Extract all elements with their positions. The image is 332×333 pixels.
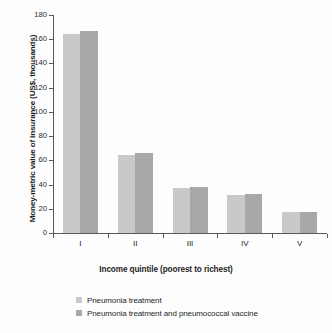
y-axis-tick: 40 xyxy=(49,185,53,186)
y-axis-tick-label: 80 xyxy=(25,131,47,140)
y-axis-tick: 60 xyxy=(49,160,53,161)
plot-area: 020406080100120140160180IIIIIIIVV xyxy=(53,15,327,233)
y-axis-tick-label: 140 xyxy=(25,58,47,67)
bar-II-series2 xyxy=(135,153,153,233)
y-axis-tick-label: 20 xyxy=(25,204,47,213)
bar-V-series1 xyxy=(282,212,300,233)
y-axis-line xyxy=(53,15,54,234)
legend-label: Pneumonia treatment and pneumococcal vac… xyxy=(87,309,258,318)
y-axis-tick: 120 xyxy=(49,88,53,89)
x-axis-category-label: III xyxy=(170,239,210,248)
chart-figure: Money-metric value of insurance (US$, th… xyxy=(0,0,332,333)
x-axis-tick xyxy=(327,234,328,238)
x-axis-tick xyxy=(272,234,273,238)
x-axis-category-label: V xyxy=(280,239,320,248)
x-axis-category-label: IV xyxy=(225,239,265,248)
bar-IV-series2 xyxy=(245,194,263,233)
legend-item: Pneumonia treatment xyxy=(76,294,326,306)
bar-III-series1 xyxy=(173,188,191,233)
y-axis-tick: 80 xyxy=(49,136,53,137)
x-axis-line xyxy=(53,233,327,234)
legend-label: Pneumonia treatment xyxy=(87,296,162,305)
x-axis-title: Income quintile (poorest to richest) xyxy=(0,265,332,274)
y-axis-tick-label: 120 xyxy=(25,83,47,92)
x-axis-tick xyxy=(108,234,109,238)
bar-I-series1 xyxy=(63,34,81,233)
chart-legend: Pneumonia treatmentPneumonia treatment a… xyxy=(76,294,326,320)
x-axis-category-label: II xyxy=(115,239,155,248)
y-axis-tick-label: 40 xyxy=(25,180,47,189)
bar-I-series2 xyxy=(80,31,98,233)
legend-item: Pneumonia treatment and pneumococcal vac… xyxy=(76,307,326,319)
y-axis-tick-label: 60 xyxy=(25,155,47,164)
y-axis-tick: 100 xyxy=(49,112,53,113)
legend-swatch-icon xyxy=(76,297,82,303)
y-axis-tick-label: 0 xyxy=(25,228,47,237)
y-axis-tick: 20 xyxy=(49,209,53,210)
x-axis-tick xyxy=(53,234,54,238)
x-axis-tick xyxy=(163,234,164,238)
x-axis-tick xyxy=(217,234,218,238)
bar-III-series2 xyxy=(190,187,208,233)
legend-swatch-icon xyxy=(76,310,82,316)
y-axis-tick: 180 xyxy=(49,15,53,16)
y-axis-tick-label: 180 xyxy=(25,10,47,19)
y-axis-tick-label: 160 xyxy=(25,34,47,43)
bar-IV-series1 xyxy=(227,195,245,233)
bar-V-series2 xyxy=(300,212,318,233)
x-axis-category-label: I xyxy=(60,239,100,248)
y-axis-tick: 140 xyxy=(49,63,53,64)
y-axis-tick: 160 xyxy=(49,39,53,40)
bar-II-series1 xyxy=(118,155,136,233)
y-axis-tick-label: 100 xyxy=(25,107,47,116)
